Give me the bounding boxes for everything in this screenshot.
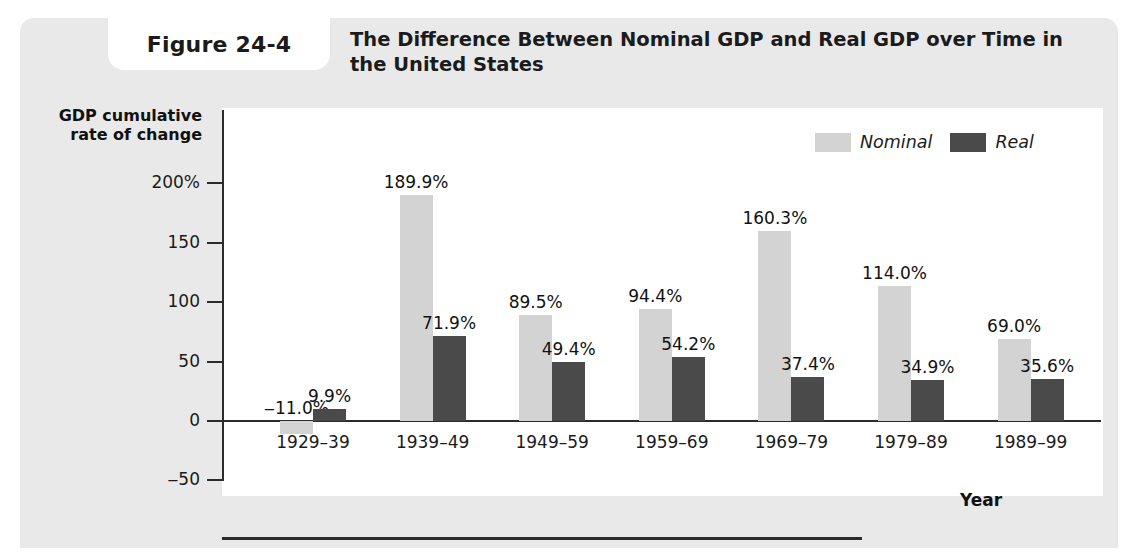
y-axis-tick-label: 50 xyxy=(80,351,200,371)
figure-title: The Difference Between Nominal GDP and R… xyxy=(350,27,1090,77)
category-label: 1989–99 xyxy=(971,432,1091,452)
legend-entry: Nominal xyxy=(815,132,932,152)
y-axis-tick-label: 150 xyxy=(80,232,200,252)
bar-real xyxy=(433,336,466,421)
y-axis-tick xyxy=(207,301,224,303)
y-axis-tick-labels: 200%150100500‒50 xyxy=(60,0,200,554)
bar-nominal xyxy=(878,286,911,421)
bar-real xyxy=(313,409,346,421)
legend-label: Nominal xyxy=(860,132,932,152)
category-label: 1959–69 xyxy=(612,432,732,452)
category-label: 1979–89 xyxy=(851,432,971,452)
bar-nominal xyxy=(400,195,433,421)
y-axis-tick-label: 200% xyxy=(80,172,200,192)
y-axis-tick-label: 0 xyxy=(80,410,200,430)
y-axis-tick-label: ‒50 xyxy=(80,469,200,489)
y-axis-tick xyxy=(207,182,224,184)
bar-real xyxy=(672,357,705,421)
legend-swatch xyxy=(950,133,986,152)
bar-real xyxy=(1031,379,1064,421)
bar-nominal xyxy=(998,339,1031,421)
category-label: 1939–49 xyxy=(373,432,493,452)
y-axis-tick xyxy=(207,361,224,363)
y-axis-tick xyxy=(207,242,224,244)
legend-label: Real xyxy=(995,132,1034,152)
category-label: 1929–39 xyxy=(253,432,373,452)
bar-real xyxy=(552,362,585,421)
x-axis-title: Year xyxy=(960,490,1002,510)
bar-real xyxy=(791,377,824,421)
legend-swatch xyxy=(815,133,851,152)
y-axis-tick xyxy=(207,479,224,481)
y-axis-tick-label: 100 xyxy=(80,291,200,311)
bar-nominal xyxy=(639,309,672,421)
bar-real xyxy=(911,380,944,421)
category-label: 1969–79 xyxy=(731,432,851,452)
chart-legend: NominalReal xyxy=(815,132,1034,152)
y-axis-tick xyxy=(207,420,224,422)
bottom-rule xyxy=(222,537,862,540)
plot-area xyxy=(222,108,1103,486)
y-axis-line xyxy=(222,110,224,481)
category-label: 1949–59 xyxy=(492,432,612,452)
bar-nominal xyxy=(519,315,552,421)
bar-nominal xyxy=(758,231,791,421)
legend-entry: Real xyxy=(950,132,1034,152)
